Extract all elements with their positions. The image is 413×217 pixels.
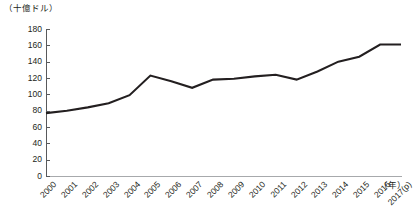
y-axis-tick <box>46 160 50 161</box>
y-axis-tick <box>46 45 50 46</box>
y-axis-tick <box>46 176 50 177</box>
y-axis-tick <box>46 127 50 128</box>
y-axis-tick <box>46 143 50 144</box>
y-axis-tick <box>46 111 50 112</box>
y-axis-tick <box>46 62 50 63</box>
x-axis-unit-label: （年） <box>379 181 406 190</box>
y-axis-tick <box>46 29 50 30</box>
y-axis-tick <box>46 78 50 79</box>
y-axis-tick <box>46 94 50 95</box>
